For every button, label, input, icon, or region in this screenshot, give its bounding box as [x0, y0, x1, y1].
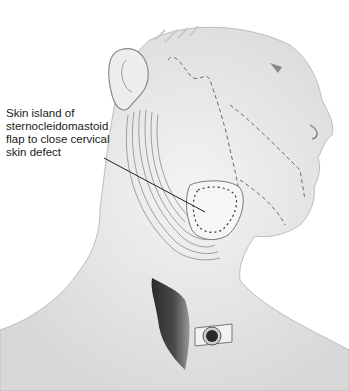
tracheostomy-tube	[195, 324, 232, 346]
annotation-line-4: skin defect	[6, 146, 166, 159]
annotation-line-2: sternocleidomastoid	[6, 120, 166, 133]
neck-flap-illustration	[0, 0, 349, 391]
annotation-line-1: Skin island of	[6, 107, 166, 120]
annotation-line-3: flap to close cervical	[6, 133, 166, 146]
annotation-label: Skin island of sternocleidomastoid flap …	[6, 107, 166, 159]
